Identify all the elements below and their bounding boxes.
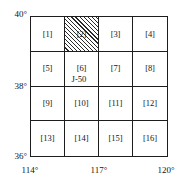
grid-cell-label: [14]	[75, 134, 89, 143]
grid-cell-5[interactable]: [5]	[31, 52, 65, 87]
grid-cell-label: [11]	[109, 99, 122, 108]
longitude-tick-114: 114°	[22, 166, 39, 175]
grid-row: [5] [6] [7] [8]	[31, 52, 167, 87]
sheet-code-label: J-50	[69, 75, 90, 84]
grid-cell-label: [3]	[111, 30, 121, 39]
grid-row: [1] [2] [3] [4]	[31, 17, 167, 52]
grid-cell-3[interactable]: [3]	[99, 17, 133, 52]
grid-cell-label: [6]	[77, 64, 87, 73]
grid-cell-label: [13]	[41, 134, 55, 143]
grid-cell-label: [2]	[77, 30, 87, 39]
grid-cell-label: [16]	[143, 134, 157, 143]
grid-cell-2[interactable]: [2]	[65, 17, 99, 52]
grid-cell-15[interactable]: [15]	[99, 121, 133, 156]
latitude-tick-36: 36°	[2, 152, 27, 161]
grid-cell-label: [7]	[111, 64, 121, 73]
grid-cell-14[interactable]: [14]	[65, 121, 99, 156]
grid-row: [13] [14] [15] [16]	[31, 121, 167, 156]
grid-cell-16[interactable]: [16]	[133, 121, 167, 156]
longitude-tick-120: 120°	[157, 166, 174, 175]
grid-box: [1] [2] [3] [4] [5] [6]	[30, 16, 168, 157]
grid-cell-label: [4]	[145, 30, 155, 39]
grid-cell-label: [15]	[109, 134, 123, 143]
grid-cell-label: [5]	[43, 64, 53, 73]
grid-cell-12[interactable]: [12]	[133, 87, 167, 122]
grid-cell-11[interactable]: [11]	[99, 87, 133, 122]
grid-cell-4[interactable]: [4]	[133, 17, 167, 52]
grid-rows: [1] [2] [3] [4] [5] [6]	[31, 17, 167, 156]
grid-cell-9[interactable]: [9]	[31, 87, 65, 122]
grid-row: [9] [10] [11] [12]	[31, 87, 167, 122]
grid-cell-1[interactable]: [1]	[31, 17, 65, 52]
grid-cell-label: [1]	[43, 30, 53, 39]
grid-cell-label: [10]	[75, 99, 89, 108]
grid-cell-label: [9]	[43, 99, 53, 108]
grid-cell-8[interactable]: [8]	[133, 52, 167, 87]
grid-cell-label: [12]	[143, 99, 157, 108]
latitude-tick-40: 40°	[2, 10, 27, 19]
grid-cell-label: [8]	[145, 64, 155, 73]
sheet-index-figure: [1] [2] [3] [4] [5] [6]	[0, 0, 184, 183]
longitude-tick-117: 117°	[91, 166, 108, 175]
grid-cell-7[interactable]: [7]	[99, 52, 133, 87]
grid-cell-10[interactable]: [10]	[65, 87, 99, 122]
latitude-tick-38: 38°	[2, 82, 27, 91]
grid-cell-13[interactable]: [13]	[31, 121, 65, 156]
